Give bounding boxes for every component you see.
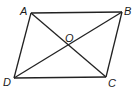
vertex-label-a: A	[19, 5, 27, 17]
edge-bc	[106, 12, 122, 77]
diagonal-bd	[14, 12, 122, 78]
vertex-label-c: C	[108, 77, 116, 89]
edge-da	[14, 13, 31, 78]
parallelogram-diagram: A B C D O	[0, 0, 133, 93]
edge-ab	[31, 12, 122, 13]
intersection-label-o: O	[65, 32, 74, 44]
vertex-label-d: D	[3, 76, 11, 88]
vertex-label-b: B	[124, 5, 131, 17]
edge-cd	[14, 77, 106, 78]
